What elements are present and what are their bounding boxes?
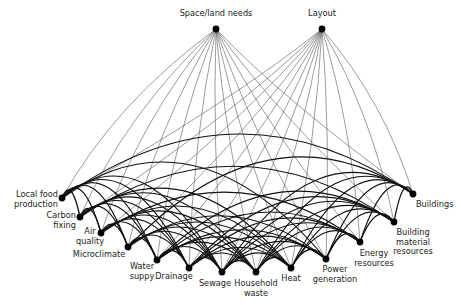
node-water [154, 257, 161, 264]
node-power [323, 256, 330, 263]
label-heat: Heat [281, 274, 300, 284]
label-sewage: Sewage [199, 279, 231, 289]
node-space [213, 26, 220, 33]
node-waste [253, 269, 260, 276]
node-buildings [410, 191, 417, 198]
thin-edge [80, 29, 322, 217]
label-energy: Energyresources [354, 249, 394, 268]
label-air: Airquality [76, 227, 104, 246]
label-food: Local foodproduction [14, 190, 58, 209]
node-group [59, 26, 417, 276]
label-carbon: Carbonfixing [47, 211, 77, 230]
node-sewage [219, 269, 226, 276]
label-buildings: Buildings [416, 200, 453, 210]
label-waste: Householdwaste [234, 279, 277, 298]
thin-edge [62, 29, 216, 198]
thin-edge [322, 29, 360, 242]
label-layout: Layout [308, 9, 336, 19]
node-food [59, 195, 66, 202]
thin-edge [128, 29, 216, 247]
node-heat [288, 265, 295, 272]
node-material [391, 219, 398, 226]
label-micro: Microclimate [73, 250, 125, 260]
thin-edge [101, 29, 216, 233]
label-drain: Drainage [155, 272, 192, 282]
label-power: Powergeneration [313, 265, 358, 284]
thick-edge [157, 250, 189, 268]
thin-edge [222, 29, 322, 272]
node-carbon [77, 214, 84, 221]
thin-edge-group [62, 29, 413, 272]
label-water: Watersuppy [130, 262, 155, 281]
label-material: Buildingmaterialresources [393, 228, 433, 257]
node-micro [125, 244, 132, 251]
node-energy [357, 239, 364, 246]
node-layout [319, 26, 326, 33]
label-space: Space/land needs [180, 9, 253, 19]
